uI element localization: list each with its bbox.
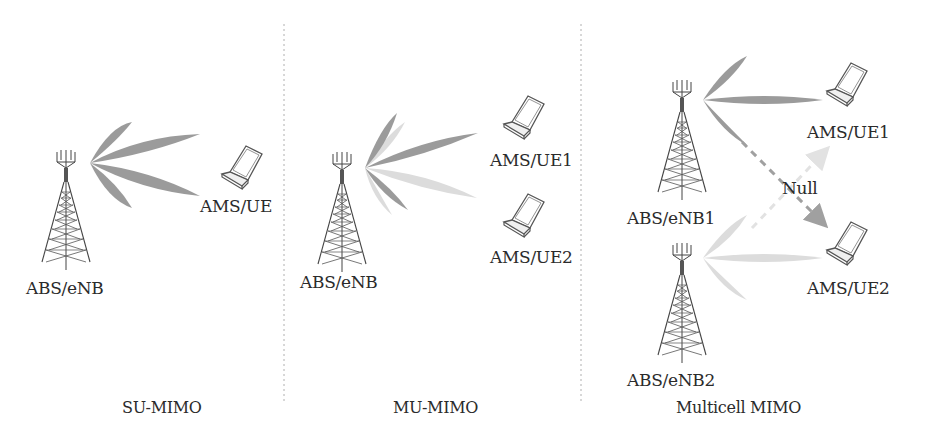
mc-tower2-icon bbox=[658, 243, 706, 363]
su-base-station-label: ABS/eNB bbox=[26, 278, 103, 298]
mc-user2-label: AMS/UE2 bbox=[807, 278, 890, 298]
diagram-graphics bbox=[0, 0, 942, 443]
mc-laptop2-icon bbox=[827, 222, 867, 265]
mc-user1-label: AMS/UE1 bbox=[807, 122, 890, 142]
mc-caption: Multicell MIMO bbox=[676, 398, 801, 417]
mu-laptop2-icon bbox=[504, 194, 544, 237]
null-label: Null bbox=[782, 178, 818, 198]
mu-tower-icon bbox=[318, 152, 366, 272]
mc-beam-enb2 bbox=[703, 215, 823, 300]
su-beam bbox=[90, 122, 200, 208]
su-tower-icon bbox=[42, 150, 90, 270]
mu-caption: MU-MIMO bbox=[393, 398, 478, 417]
mimo-diagram: ABS/eNB AMS/UE SU-MIMO ABS/eNB AMS/UE1 A… bbox=[0, 0, 942, 443]
mu-laptop1-icon bbox=[504, 96, 544, 139]
mc-laptop1-icon bbox=[827, 63, 867, 106]
mu-base-station-label: ABS/eNB bbox=[300, 272, 377, 292]
su-user-label: AMS/UE bbox=[200, 196, 272, 216]
mu-user1-label: AMS/UE1 bbox=[490, 150, 573, 170]
mc-base-station2-label: ABS/eNB2 bbox=[627, 370, 715, 390]
mc-tower1-icon bbox=[658, 80, 706, 200]
mu-user2-label: AMS/UE2 bbox=[490, 247, 573, 267]
mc-beam-enb1 bbox=[703, 56, 823, 146]
su-laptop-icon bbox=[222, 146, 262, 189]
su-caption: SU-MIMO bbox=[122, 398, 202, 417]
mc-base-station1-label: ABS/eNB1 bbox=[627, 208, 715, 228]
